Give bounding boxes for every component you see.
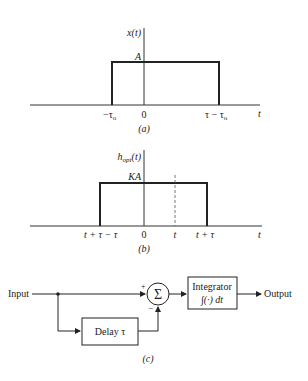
branch-line <box>58 294 80 331</box>
plot-a: x(t) A −τo 0 τ − τo t (a) <box>30 27 261 135</box>
sigma-icon: Σ <box>154 287 162 302</box>
integrator-formula: ∫(·) dt <box>200 294 223 306</box>
tick-left-b: t + τ − τ <box>84 229 118 240</box>
pulse-b <box>100 183 207 226</box>
tick-to-b: t <box>174 229 177 240</box>
tick-zero-a: 0 <box>142 109 147 120</box>
tick-zero-b: 0 <box>142 229 147 240</box>
minus-sign: − <box>148 303 153 313</box>
tick-tau-minus-tau: τ − τo <box>205 109 228 122</box>
plus-sign: + <box>141 282 146 291</box>
y-label-b: hopt(t) <box>118 151 142 164</box>
caption-c: (c) <box>142 353 154 365</box>
tick-right-b: t + τ <box>196 229 215 240</box>
figure-canvas: x(t) A −τo 0 τ − τo t (a) hopt(t) KA t +… <box>0 0 308 381</box>
caption-a: (a) <box>138 123 150 135</box>
input-label: Input <box>8 288 29 299</box>
tick-neg-tau: −τo <box>103 109 117 122</box>
delay-label: Delay τ <box>95 326 125 337</box>
pulse-a <box>112 62 219 105</box>
plot-b: hopt(t) KA t + τ − τ 0 t t + τ t (b) <box>30 150 262 255</box>
amplitude-label-a: A <box>134 51 142 62</box>
amplitude-label-b: KA <box>127 171 142 182</box>
caption-b: (b) <box>138 243 150 255</box>
integrator-title: Integrator <box>192 281 232 292</box>
y-label-a: x(t) <box>126 27 142 39</box>
block-diagram: Input Delay τ Σ + − Integrator ∫(·) dt O… <box>8 277 292 365</box>
x-label-a: t <box>258 108 261 119</box>
x-label-b: t <box>258 229 261 240</box>
output-label: Output <box>264 288 292 299</box>
